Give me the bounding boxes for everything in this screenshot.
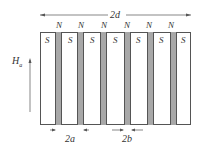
north-label: N <box>124 21 130 30</box>
field-label: Ha <box>12 56 22 70</box>
south-label: S <box>90 36 95 45</box>
magnet-sample-box <box>40 32 191 125</box>
north-label: N <box>101 21 107 30</box>
north-label: N <box>56 21 62 30</box>
south-label: S <box>68 36 73 45</box>
width-2b-label: 2b <box>122 134 132 143</box>
south-label: S <box>45 36 50 45</box>
width-2a-label: 2a <box>65 134 75 143</box>
north-domain-stripe <box>55 32 62 125</box>
south-label: S <box>136 36 141 45</box>
north-label: N <box>146 21 152 30</box>
north-label: N <box>168 21 174 30</box>
north-domain-stripe <box>100 32 107 125</box>
north-domain-stripe <box>147 32 154 125</box>
field-subscript: a <box>19 62 22 68</box>
dimension-2d-label: 2d <box>110 10 120 19</box>
north-domain-stripe <box>124 32 131 125</box>
south-label: S <box>113 36 118 45</box>
north-domain-stripe <box>77 32 84 125</box>
north-label: N <box>78 21 84 30</box>
south-label: S <box>181 36 186 45</box>
south-label: S <box>159 36 164 45</box>
north-domain-stripe <box>170 32 177 125</box>
